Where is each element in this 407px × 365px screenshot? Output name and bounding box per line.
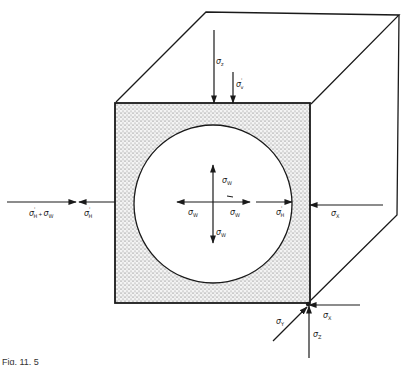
figure-caption: Fig. 11. 5	[2, 358, 39, 365]
label-sigma-x-right: σX	[331, 209, 340, 219]
label-sigma-y-corner: σY	[276, 317, 285, 327]
corner-point	[306, 302, 310, 306]
label-sigma-h-plus-w: σ'H+σW	[29, 206, 54, 219]
label-sigma-z-corner: σZ	[313, 330, 322, 340]
stress-cube-diagram: σz σ'v σ'H+σW σ'H σW σW σW σW σ'H σX σX …	[0, 0, 407, 365]
label-sigma-h-prime-left: σ'H	[84, 206, 92, 219]
label-sigma-x-corner: σX	[323, 311, 332, 321]
label-sigma-z-top: σz	[216, 57, 224, 67]
label-sigma-v-prime: σ'v	[236, 77, 243, 90]
